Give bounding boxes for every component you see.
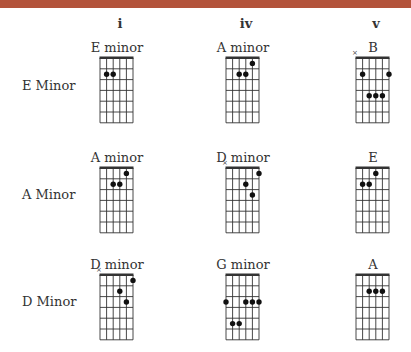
finger-dot xyxy=(360,182,365,187)
finger-dot xyxy=(104,72,109,77)
finger-dot xyxy=(237,72,242,77)
fretboard-grid xyxy=(223,269,263,341)
finger-dot xyxy=(111,72,116,77)
finger-dot xyxy=(373,93,378,98)
finger-dot xyxy=(130,278,135,283)
finger-dot xyxy=(124,299,129,304)
fretboard-grid: × xyxy=(353,52,393,124)
finger-dot xyxy=(124,171,129,176)
nut xyxy=(100,167,134,170)
finger-dot xyxy=(117,182,122,187)
finger-dot xyxy=(367,289,372,294)
row-label-a-minor: A Minor xyxy=(22,187,92,202)
finger-dot xyxy=(360,72,365,77)
finger-dot xyxy=(250,192,255,197)
nut xyxy=(100,57,134,60)
column-header-iv: iv xyxy=(216,16,276,31)
finger-dot xyxy=(250,299,255,304)
column-header-i: i xyxy=(90,16,150,31)
fretboard-grid: × xyxy=(97,269,137,341)
finger-dot xyxy=(367,182,372,187)
finger-dot xyxy=(380,289,385,294)
finger-dot xyxy=(373,171,378,176)
nut xyxy=(226,167,260,170)
finger-dot xyxy=(230,321,235,326)
fretboard-grid xyxy=(97,52,137,124)
nut xyxy=(226,57,260,60)
row-label-d-minor: D Minor xyxy=(22,294,92,309)
fretboard-grid: × xyxy=(223,162,263,234)
finger-dot xyxy=(373,289,378,294)
finger-dot xyxy=(250,61,255,66)
finger-dot xyxy=(243,299,248,304)
finger-dot xyxy=(367,93,372,98)
header-bar xyxy=(0,0,411,8)
column-header-v: v xyxy=(346,16,406,31)
row-label-e-minor: E Minor xyxy=(22,78,92,93)
finger-dot xyxy=(243,182,248,187)
fretboard-grid xyxy=(223,52,263,124)
finger-dot xyxy=(256,171,261,176)
finger-dot xyxy=(117,289,122,294)
finger-dot xyxy=(380,93,385,98)
muted-string-icon: × xyxy=(352,49,358,57)
finger-dot xyxy=(223,299,228,304)
nut xyxy=(226,274,260,277)
nut xyxy=(356,57,390,60)
nut xyxy=(100,274,134,277)
fretboard-grid xyxy=(353,269,393,341)
finger-dot xyxy=(111,182,116,187)
nut xyxy=(356,274,390,277)
finger-dot xyxy=(237,321,242,326)
muted-string-icon: × xyxy=(222,159,228,167)
finger-dot xyxy=(256,299,261,304)
fretboard-grid xyxy=(97,162,137,234)
finger-dot xyxy=(243,72,248,77)
nut xyxy=(356,167,390,170)
fretboard-grid xyxy=(353,162,393,234)
muted-string-icon: × xyxy=(96,266,102,274)
finger-dot xyxy=(386,72,391,77)
